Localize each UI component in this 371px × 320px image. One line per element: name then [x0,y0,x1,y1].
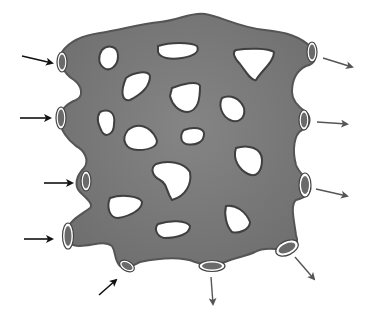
inlet-vessel [81,171,91,191]
pore [99,47,118,70]
inlet-vessel [56,107,66,129]
outlet-vessel [307,42,317,62]
outflow-arrow-icon [317,122,347,124]
outlet-vessel [299,110,309,130]
diagram-canvas [0,0,371,320]
outflow-arrow-icon [323,58,352,67]
outflow-arrow-icon [211,277,213,304]
outlet-vessel [199,261,225,272]
outflow-arrow-icon [295,257,314,279]
inflow-arrow-icon [99,280,116,295]
inlet-vessel [57,52,67,72]
outlet-vessel [299,173,311,197]
pore [158,43,198,59]
outflow-arrow-icon [316,189,347,196]
inflow-arrow-icon [22,56,52,63]
inlet-vessel [63,223,74,249]
pore [181,128,204,145]
porous-network-diagram [0,0,371,320]
